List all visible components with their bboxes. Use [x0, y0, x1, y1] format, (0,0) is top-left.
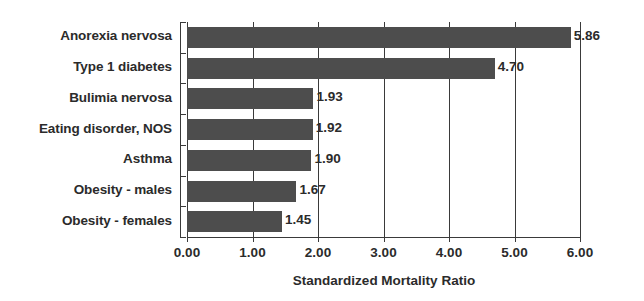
y-axis-tick	[180, 83, 186, 84]
bar-row: 1.93	[187, 83, 580, 114]
y-axis-tick	[180, 114, 186, 115]
category-label: Obesity - males	[0, 182, 172, 197]
x-axis-tick	[318, 237, 319, 242]
bar	[187, 58, 495, 79]
bar	[187, 181, 296, 202]
x-axis-tick	[187, 237, 188, 242]
y-axis-tick	[180, 53, 186, 54]
x-axis-tick-label: 5.00	[485, 245, 545, 260]
y-axis-tick	[180, 176, 186, 177]
x-axis-tick-label: 0.00	[157, 245, 217, 260]
category-label: Anorexia nervosa	[0, 28, 172, 43]
y-axis-tick	[180, 237, 186, 238]
bar-value-label: 1.67	[299, 179, 325, 200]
category-label: Eating disorder, NOS	[0, 121, 172, 136]
y-axis-tick	[180, 22, 186, 23]
bar	[187, 150, 311, 171]
x-axis-tick	[253, 237, 254, 242]
bar	[187, 119, 313, 140]
x-axis-tick-label: 2.00	[288, 245, 348, 260]
bar-value-label: 1.93	[316, 86, 342, 107]
bar-row: 4.70	[187, 53, 580, 84]
x-axis-tick	[384, 237, 385, 242]
x-axis-tick-label: 1.00	[223, 245, 283, 260]
bar-row: 1.45	[187, 206, 580, 237]
bar	[187, 88, 313, 109]
x-axis-tick	[515, 237, 516, 242]
x-axis-tick-label: 3.00	[354, 245, 414, 260]
y-axis-spine	[180, 22, 181, 237]
x-axis-tick	[580, 237, 581, 242]
gridline	[580, 22, 581, 237]
x-axis-tick	[449, 237, 450, 242]
bar-value-label: 4.70	[498, 56, 524, 77]
bar-row: 1.92	[187, 114, 580, 145]
category-label: Asthma	[0, 151, 172, 166]
category-axis-labels: Anorexia nervosaType 1 diabetesBulimia n…	[0, 22, 172, 237]
bar-row: 1.67	[187, 176, 580, 207]
x-axis-title: Standardized Mortality Ratio	[187, 273, 581, 288]
x-axis-tick-label: 6.00	[550, 245, 610, 260]
bar-row: 5.86	[187, 22, 580, 53]
plot-area: 5.864.701.931.921.901.671.45	[187, 22, 580, 237]
category-label: Bulimia nervosa	[0, 90, 172, 105]
bar-row: 1.90	[187, 145, 580, 176]
y-axis-tick	[180, 145, 186, 146]
y-axis-tick	[180, 206, 186, 207]
bar-chart: Anorexia nervosaType 1 diabetesBulimia n…	[0, 0, 644, 301]
bar-value-label: 1.90	[314, 148, 340, 169]
bar-value-label: 1.92	[316, 117, 342, 138]
category-label: Obesity - females	[0, 213, 172, 228]
bar-value-label: 5.86	[574, 25, 600, 46]
bar	[187, 211, 282, 232]
category-label: Type 1 diabetes	[0, 59, 172, 74]
x-axis-tick-label: 4.00	[419, 245, 479, 260]
bar	[187, 27, 571, 48]
bar-value-label: 1.45	[285, 209, 311, 230]
